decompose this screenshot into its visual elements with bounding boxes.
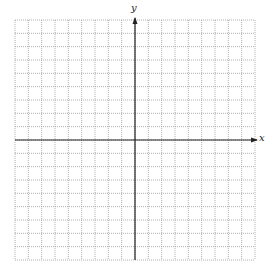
x-axis-arrow-icon	[251, 138, 258, 143]
coordinate-plane	[0, 0, 273, 273]
y-axis-label: y	[131, 3, 137, 13]
axes	[15, 17, 258, 260]
y-axis-arrow-icon	[133, 17, 138, 24]
x-axis-label: x	[259, 133, 265, 143]
